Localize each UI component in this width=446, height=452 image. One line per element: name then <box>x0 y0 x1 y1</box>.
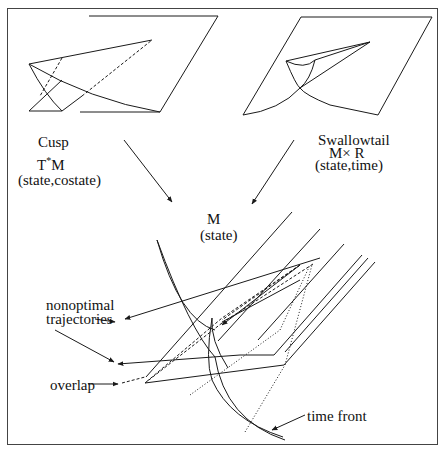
cusp-label: Cusp <box>38 134 69 150</box>
dotted-boundary-2 <box>245 265 312 432</box>
overlap-label: overlap <box>50 377 95 393</box>
cusp-space-label: T*M <box>37 157 65 173</box>
swallowtail-section <box>212 318 228 368</box>
cusp-projection-arrow <box>124 140 172 202</box>
trajectory-lines <box>118 212 375 383</box>
state-space-label: M <box>207 211 220 227</box>
cusp-coords-label: (state,costate) <box>18 172 101 188</box>
state-coords-label: (state) <box>200 227 237 243</box>
nonoptimal-arrow-lower <box>55 330 114 362</box>
time-front-label: time front <box>307 408 367 424</box>
swallowtail-projection-arrow <box>252 140 294 204</box>
swallowtail-coords-label: (state,time) <box>315 157 383 173</box>
time-front-arrow <box>272 415 305 430</box>
swallowtail-surface <box>243 17 432 115</box>
nonoptimal-label-line2: trajectories <box>46 311 113 327</box>
cusp-surface <box>29 16 218 112</box>
